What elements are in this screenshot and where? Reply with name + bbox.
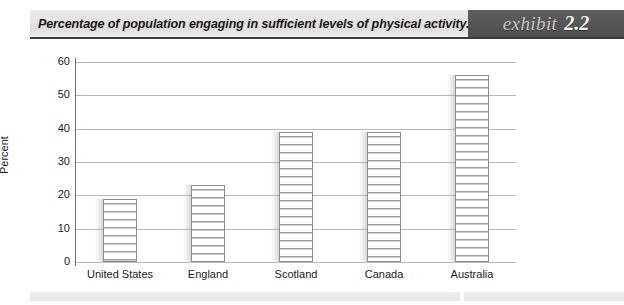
y-axis-tick-label: 40	[36, 122, 70, 134]
bar[interactable]	[191, 185, 225, 262]
x-axis-tick-label: Australia	[428, 268, 516, 280]
exhibit-badge-word: exhibit	[503, 13, 558, 35]
y-axis-tick-label: 50	[36, 88, 70, 100]
exhibit-title: Percentage of population engaging in suf…	[38, 13, 458, 35]
bar-group: Canada	[340, 62, 428, 262]
page-artifact-strip-right	[464, 292, 624, 301]
y-axis-tick-label: 10	[36, 222, 70, 234]
bar-group: Scotland	[252, 62, 340, 262]
y-axis-title: Percent	[0, 136, 10, 174]
bar[interactable]	[455, 75, 489, 262]
y-axis-tick-label: 0	[36, 255, 70, 267]
y-axis-tick-label: 20	[36, 188, 70, 200]
x-axis-tick-label: Canada	[340, 268, 428, 280]
x-axis-tick-label: Scotland	[252, 268, 340, 280]
y-axis-tick-label: 60	[36, 55, 70, 67]
x-axis-tick-label: United States	[76, 268, 164, 280]
bar[interactable]	[279, 132, 313, 262]
y-axis-tick-label: 30	[36, 155, 70, 167]
gridline	[76, 262, 516, 263]
exhibit-badge-number: 2.2	[564, 12, 589, 35]
bar-group: Australia	[428, 62, 516, 262]
page-artifact-strip-left	[30, 292, 460, 301]
bar-group: United States	[76, 62, 164, 262]
plot-area: United StatesEnglandScotlandCanadaAustra…	[76, 62, 516, 262]
bar[interactable]	[103, 199, 137, 262]
exhibit-header-underline	[30, 37, 624, 39]
bar-group: England	[164, 62, 252, 262]
y-axis-tick-labels: 0102030405060	[30, 62, 70, 262]
x-axis-tick-label: England	[164, 268, 252, 280]
bar-chart: Percent 0102030405060 United StatesEngla…	[0, 44, 624, 284]
bar[interactable]	[367, 132, 401, 262]
exhibit-badge: exhibit 2.2	[468, 10, 624, 37]
